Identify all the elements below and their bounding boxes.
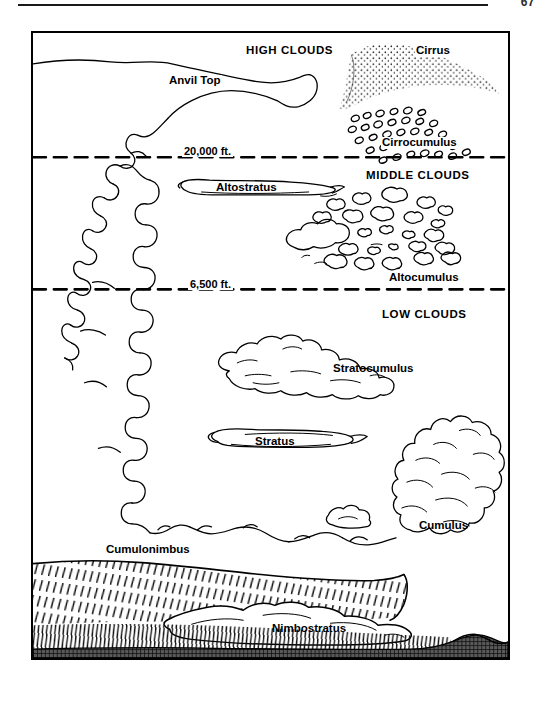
diagram-artwork <box>33 33 508 658</box>
zone-label-low-clouds: LOW CLOUDS <box>381 309 468 321</box>
small-cumulus-cloud <box>326 505 370 528</box>
cumulus-cloud <box>392 416 504 534</box>
cloud-label-cumulus: Cumulus <box>419 520 468 532</box>
page-header-rule <box>18 4 488 6</box>
cloud-altitude-diagram: HIGH CLOUDS MIDDLE CLOUDS LOW CLOUDS 20,… <box>31 31 510 660</box>
cloud-label-stratocumulus: Stratocumulus <box>333 363 414 375</box>
zone-label-high-clouds: HIGH CLOUDS <box>245 45 334 57</box>
altitude-label-6500ft: 6,500 ft. <box>188 279 233 290</box>
altocumulus-cloud <box>286 187 460 270</box>
altitude-label-20000ft: 20,000 ft. <box>182 146 233 157</box>
cloud-label-altostratus: Altostratus <box>216 182 277 194</box>
cloud-label-cirrus: Cirrus <box>415 45 451 57</box>
cloud-label-anvil-top: Anvil Top <box>168 75 222 87</box>
cloud-label-cumulonimbus: Cumulonimbus <box>105 544 191 556</box>
zone-label-middle-clouds: MIDDLE CLOUDS <box>365 170 471 182</box>
cloud-label-nimbostratus: Nimbostratus <box>272 623 346 635</box>
cloud-label-cirrocumulus: Cirrocumulus <box>381 137 458 149</box>
page-number: 67 <box>521 0 535 8</box>
cumulonimbus-anvil-outline <box>33 60 396 545</box>
cloud-label-stratus: Stratus <box>255 436 295 448</box>
cloud-label-altocumulus: Altocumulus <box>388 272 460 284</box>
